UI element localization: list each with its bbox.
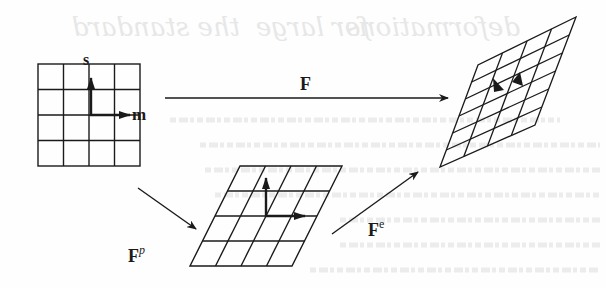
intermediate-slip-system [265,178,305,217]
plastic-deformation-label: Fp [128,243,145,266]
slip-normal-label: m [132,105,146,124]
plastic-deformation-arrow [138,188,196,229]
reference-slip-system [90,78,130,116]
current-slip-system [493,72,523,92]
total-deformation-label: F [300,74,311,94]
current-grid [440,17,576,167]
decomposition-diagram: s m F Fp Fe [0,0,606,288]
slip-direction-label: s [83,51,89,68]
deformed-slip-direction-arrowhead [493,78,504,92]
elastic-deformation-label: Fe [368,217,384,240]
